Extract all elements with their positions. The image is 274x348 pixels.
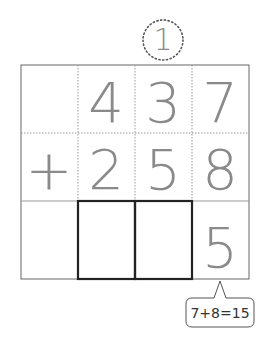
carry-indicator: 1 bbox=[143, 20, 183, 60]
plus-operator: + bbox=[26, 137, 73, 202]
answer-box-tens[interactable] bbox=[135, 201, 192, 279]
answer-digit-ones: 5 bbox=[202, 215, 238, 280]
addend-row-2: + 2 5 8 bbox=[26, 137, 238, 202]
hint-text: 7+8=15 bbox=[190, 305, 249, 321]
answer-row: 5 bbox=[78, 201, 238, 280]
digit-hundreds: 4 bbox=[88, 70, 124, 135]
digit-ones: 8 bbox=[202, 137, 238, 202]
hint-callout: 7+8=15 bbox=[186, 281, 254, 327]
digit-hundreds: 2 bbox=[88, 137, 124, 202]
answer-box-hundreds[interactable] bbox=[78, 201, 135, 279]
addition-worksheet: 1 4 3 7 + 2 5 8 5 7+8=15 bbox=[0, 0, 274, 348]
addend-row-1: 4 3 7 bbox=[88, 70, 238, 135]
digit-tens: 5 bbox=[145, 137, 181, 202]
digit-tens: 3 bbox=[145, 70, 181, 135]
digit-ones: 7 bbox=[202, 70, 238, 135]
carry-digit: 1 bbox=[153, 22, 172, 57]
